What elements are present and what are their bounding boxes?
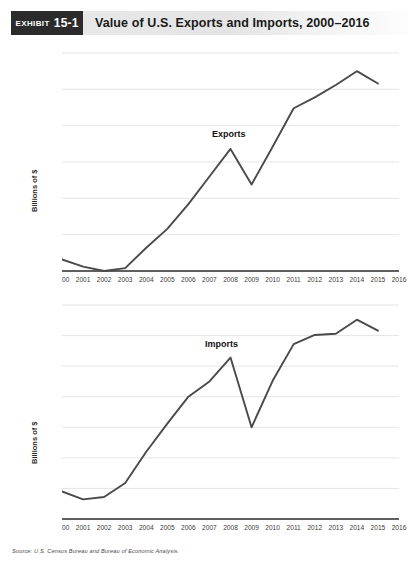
x-tick-label: 2004 xyxy=(139,524,154,531)
x-tick-label: 2012 xyxy=(307,524,322,531)
exhibit-title: Value of U.S. Exports and Imports, 2000–… xyxy=(95,11,370,35)
exports-plot-area: 1000125015001750200022502500200020012002… xyxy=(62,42,407,294)
x-tick-label: 2006 xyxy=(181,524,196,531)
x-tick-label: 2000 xyxy=(62,524,70,531)
source-note: Source: U.S. Census Bureau and Bureau of… xyxy=(12,548,179,554)
imports-y-axis-title: Billions of $ xyxy=(30,421,39,464)
x-tick-label: 2011 xyxy=(287,524,302,531)
x-tick-label: 2008 xyxy=(223,524,238,531)
x-tick-label: 2013 xyxy=(328,276,343,283)
x-tick-label: 2000 xyxy=(62,276,70,283)
x-tick-label: 2004 xyxy=(139,276,154,283)
imports-series-label: Imports xyxy=(205,339,238,349)
x-tick-label: 2003 xyxy=(118,276,133,283)
x-tick-label: 2002 xyxy=(97,524,112,531)
x-tick-label: 2014 xyxy=(350,276,365,283)
x-tick-label: 2013 xyxy=(328,524,343,531)
x-tick-label: 2007 xyxy=(202,276,217,283)
x-tick-label: 2010 xyxy=(265,276,280,283)
x-tick-label: 2012 xyxy=(307,276,322,283)
x-tick-label: 2011 xyxy=(287,276,302,283)
x-tick-label: 2016 xyxy=(392,276,407,283)
x-tick-label: 2002 xyxy=(97,276,112,283)
x-tick-label: 2009 xyxy=(244,524,259,531)
x-tick-label: 2003 xyxy=(118,524,133,531)
exhibit-badge-number: 15-1 xyxy=(54,16,79,30)
x-tick-label: 2015 xyxy=(371,276,386,283)
x-tick-label: 2008 xyxy=(223,276,238,283)
x-tick-label: 2005 xyxy=(160,276,175,283)
x-tick-label: 2001 xyxy=(76,524,91,531)
imports-plot-area: 1250150017502000225025002750300020002001… xyxy=(62,294,407,544)
exports-y-axis-title: Billions of $ xyxy=(30,169,39,212)
exhibit-badge-word: Exhibit xyxy=(15,19,49,28)
x-tick-label: 2001 xyxy=(76,276,91,283)
x-tick-label: 2010 xyxy=(265,524,280,531)
exports-series-label: Exports xyxy=(212,129,246,139)
exports-chart-block: Billions of $ 10001250150017502000225025… xyxy=(0,42,419,294)
imports-svg: 1250150017502000225025002750300020002001… xyxy=(62,294,407,544)
exhibit-page: Exhibit 15-1 Value of U.S. Exports and I… xyxy=(0,0,419,572)
x-tick-label: 2006 xyxy=(181,276,196,283)
x-tick-label: 2014 xyxy=(350,524,365,531)
x-tick-label: 2009 xyxy=(244,276,259,283)
x-tick-label: 2007 xyxy=(202,524,217,531)
x-tick-label: 2016 xyxy=(392,524,407,531)
exhibit-badge: Exhibit 15-1 xyxy=(11,11,83,35)
exports-svg: 1000125015001750200022502500200020012002… xyxy=(62,42,407,294)
x-tick-label: 2005 xyxy=(160,524,175,531)
exhibit-header-bar: Exhibit 15-1 Value of U.S. Exports and I… xyxy=(11,11,408,35)
x-tick-label: 2015 xyxy=(371,524,386,531)
imports-chart-block: Billions of $ 12501500175020002250250027… xyxy=(0,294,419,544)
